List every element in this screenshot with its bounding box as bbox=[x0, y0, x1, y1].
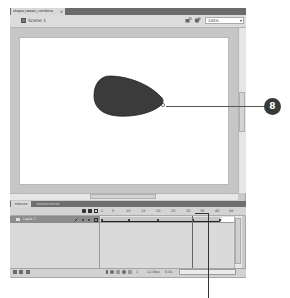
empty-frames[interactable] bbox=[222, 217, 234, 222]
center-frame-icon[interactable] bbox=[106, 270, 108, 274]
lock-dot-icon[interactable] bbox=[88, 219, 90, 221]
chevron-down-icon bbox=[240, 20, 242, 22]
modify-markers-icon[interactable] bbox=[128, 270, 132, 274]
onion-skin-outlines-icon[interactable] bbox=[116, 270, 120, 274]
new-folder-icon[interactable] bbox=[19, 270, 23, 274]
keyframe[interactable] bbox=[157, 219, 159, 221]
ruler-frame-5[interactable]: 5 bbox=[112, 209, 114, 213]
outline-layers-icon[interactable] bbox=[94, 209, 98, 213]
timeline-vertical-scroll-thumb[interactable] bbox=[235, 218, 241, 264]
frame-rate[interactable]: 12.0fps bbox=[147, 269, 160, 275]
keyframe[interactable] bbox=[219, 219, 221, 221]
playhead-line bbox=[192, 216, 193, 268]
edit-scene-icon[interactable] bbox=[194, 17, 201, 23]
show-hide-layers-icon[interactable] bbox=[82, 209, 86, 213]
layer-name[interactable]: Layer 1 bbox=[23, 216, 36, 223]
pencil-icon bbox=[74, 218, 78, 222]
new-layer-icon[interactable] bbox=[13, 270, 17, 274]
frames-panel-empty bbox=[100, 223, 234, 268]
ruler-frame-10[interactable]: 10 bbox=[126, 209, 130, 213]
stage-horizontal-scroll-thumb[interactable] bbox=[90, 194, 156, 199]
ruler-frame-25[interactable]: 25 bbox=[171, 209, 175, 213]
outline-box-icon[interactable] bbox=[94, 218, 98, 222]
pointer-leader-horizontal bbox=[195, 213, 209, 214]
document-tab[interactable]: shape_tween_combine × bbox=[11, 8, 65, 15]
shape-tween-span[interactable] bbox=[192, 217, 220, 222]
scene-breadcrumb[interactable]: Scene 1 bbox=[28, 17, 46, 24]
onion-skin-icon[interactable] bbox=[110, 270, 114, 274]
current-frame: 1 bbox=[136, 269, 138, 275]
layers-panel-empty bbox=[10, 223, 100, 268]
ruler-frame-45[interactable]: 45 bbox=[229, 209, 233, 213]
document-tab-label: shape_tween_combine bbox=[13, 9, 53, 13]
shape-tween-span[interactable] bbox=[157, 217, 192, 222]
zoom-dropdown[interactable]: 100% bbox=[205, 17, 244, 24]
pointer-leader-line bbox=[208, 213, 209, 298]
elapsed-time: 0.0s bbox=[165, 269, 172, 275]
shape-tween-span[interactable] bbox=[128, 217, 157, 222]
callout-leader-line bbox=[166, 106, 265, 107]
close-icon[interactable]: × bbox=[60, 8, 63, 15]
zoom-value: 100% bbox=[208, 18, 219, 23]
scene-icon bbox=[21, 18, 26, 23]
ruler-frame-30[interactable]: 30 bbox=[186, 209, 190, 213]
stage-vertical-scroll-thumb[interactable] bbox=[239, 92, 245, 132]
edit-multiple-frames-icon[interactable] bbox=[122, 270, 126, 274]
teardrop-shape[interactable] bbox=[90, 74, 170, 118]
shape-tween-span[interactable] bbox=[101, 217, 128, 222]
callout-badge: 8 bbox=[264, 98, 281, 115]
edit-symbols-icon[interactable] bbox=[185, 17, 192, 23]
ruler-frame-20[interactable]: 20 bbox=[156, 209, 160, 213]
layer-icon bbox=[16, 218, 20, 221]
visibility-dot-icon[interactable] bbox=[82, 219, 84, 221]
keyframe[interactable] bbox=[128, 219, 130, 221]
lock-layers-icon[interactable] bbox=[88, 209, 92, 213]
keyframe[interactable] bbox=[101, 219, 103, 221]
trash-icon[interactable] bbox=[26, 270, 30, 274]
ruler-frame-40[interactable]: 40 bbox=[215, 209, 219, 213]
ruler-frame-1[interactable]: 1 bbox=[101, 209, 103, 213]
ruler-frame-15[interactable]: 15 bbox=[141, 209, 145, 213]
